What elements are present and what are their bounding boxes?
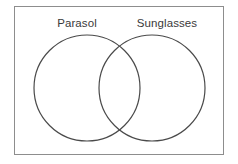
venn-circle-right <box>99 35 205 141</box>
venn-label-right: Sunglasses <box>137 18 197 30</box>
venn-circles <box>0 0 238 164</box>
venn-diagram-figure: Parasol Sunglasses <box>0 0 238 164</box>
venn-label-left: Parasol <box>57 18 97 30</box>
venn-circle-left <box>34 35 140 141</box>
